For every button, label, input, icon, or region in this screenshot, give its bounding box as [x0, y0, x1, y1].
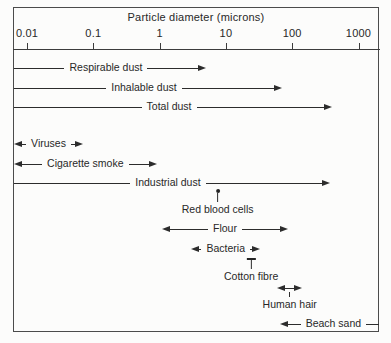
x-axis-line: [13, 49, 380, 50]
range-line: [129, 164, 149, 165]
row-label: Red blood cells: [182, 203, 254, 215]
axis-tick-label: 1: [156, 27, 162, 39]
range-line: [197, 107, 325, 108]
arrow-right-icon: [324, 104, 332, 110]
range-line: [288, 324, 301, 325]
row-human-hair: Human hair: [277, 284, 301, 310]
arrow-right-icon: [75, 141, 83, 147]
arrow-right-icon: [198, 65, 206, 71]
row-bacteria: Bacteria: [191, 243, 260, 255]
row-cotton-fibre: Cotton fibre: [224, 258, 278, 282]
axis-tick-label: 100: [283, 27, 302, 39]
axis-tick-label: 0.1: [85, 27, 101, 39]
row-inhalable-dust: Inhalable dust: [14, 82, 282, 94]
axis-tick-label: 1000: [346, 27, 371, 39]
row-industrial-dust: Industrial dust: [14, 177, 330, 189]
range-line: [206, 183, 322, 184]
range-line: [366, 324, 379, 325]
row-label: Bacteria: [201, 242, 250, 254]
range-line: [285, 288, 293, 289]
axis-tick-label: 10: [220, 27, 233, 39]
arrow-right-icon: [274, 85, 282, 91]
arrow-right-icon: [252, 246, 260, 252]
label-stem: [289, 292, 290, 297]
row-label: Viruses: [26, 137, 71, 149]
row-label: Total dust: [142, 100, 197, 112]
arrow-left-icon: [277, 285, 285, 291]
range-line: [14, 88, 106, 89]
row-label: Industrial dust: [130, 176, 205, 188]
row-label: Flour: [208, 222, 242, 234]
range-arrow: [277, 284, 301, 292]
arrow-right-icon: [294, 285, 302, 291]
particle-diameter-chart: Particle diameter (microns) 0.010.111010…: [0, 0, 391, 343]
row-label: Human hair: [263, 298, 317, 310]
row-beach-sand: Beach sand: [280, 318, 379, 330]
row-label: Beach sand: [301, 317, 366, 329]
range-line: [14, 183, 130, 184]
row-label: Respirable dust: [64, 61, 147, 73]
range-line: [170, 229, 208, 230]
arrow-left-icon: [14, 161, 22, 167]
arrow-left-icon: [14, 141, 22, 147]
arrow-right-icon: [280, 226, 288, 232]
arrow-left-icon: [280, 321, 288, 327]
row-flour: Flour: [162, 223, 287, 235]
axis-tick-label: 0.01: [16, 27, 38, 39]
arrow-right-icon: [322, 180, 330, 186]
label-stem: [217, 193, 218, 202]
arrow-right-icon: [149, 161, 157, 167]
range-line: [14, 68, 64, 69]
row-respirable-dust: Respirable dust: [14, 62, 206, 74]
row-cigarette-smoke: Cigarette smoke: [14, 158, 157, 170]
row-label: Cigarette smoke: [42, 157, 128, 169]
label-stem: [251, 260, 252, 269]
range-line: [147, 68, 197, 69]
row-total-dust: Total dust: [14, 101, 332, 113]
range-line: [182, 88, 274, 89]
row-viruses: Viruses: [14, 138, 83, 150]
row-label: Inhalable dust: [106, 81, 181, 93]
range-line: [22, 164, 42, 165]
range-line: [14, 107, 142, 108]
row-label: Cotton fibre: [224, 270, 278, 282]
range-line: [242, 229, 280, 230]
row-red-blood-cells: Red blood cells: [182, 189, 254, 215]
chart-title: Particle diameter (microns): [13, 11, 379, 23]
arrow-left-icon: [191, 246, 199, 252]
arrow-left-icon: [162, 226, 170, 232]
